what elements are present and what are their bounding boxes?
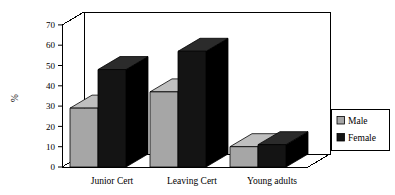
female-swatch-icon [337,134,345,142]
x-axis-labels: Junior Cert Leaving Cert Young adults [91,176,298,186]
bar-young-adults-male-front[interactable] [230,147,258,167]
y-tick-label-40: 40 [46,81,56,91]
bar-series-group [70,38,308,167]
male-swatch-icon [337,117,345,125]
y-tick-label-70: 70 [46,20,56,30]
y-tick-label-60: 60 [46,40,56,50]
y-tick-label-10: 10 [46,142,56,152]
category-label-junior-cert: Junior Cert [91,176,134,186]
bar-leaving-cert-male-front[interactable] [150,92,178,167]
bar-young-adults-female-front[interactable] [258,145,286,167]
depth-edge-top-left [62,12,84,25]
depth-edge-bottom-right [308,154,330,167]
legend-label-female: Female [348,133,376,143]
legend: Male Female [332,110,390,151]
y-tick-label-50: 50 [46,61,56,71]
bar-junior-cert-female-front[interactable] [98,70,126,167]
category-label-young-adults: Young adults [247,176,297,186]
y-axis-title: % [10,94,20,102]
legend-label-male: Male [348,116,368,126]
y-axis-ticks: 0 10 20 30 40 50 60 70 [46,20,62,172]
bar-junior-cert-female-side[interactable] [126,57,148,167]
category-label-leaving-cert: Leaving Cert [167,176,217,186]
y-tick-label-0: 0 [51,162,56,172]
legend-entry-female[interactable]: Female [337,133,376,143]
y-tick-label-20: 20 [46,122,56,132]
bar-leaving-cert-female-side[interactable] [206,38,228,167]
y-tick-label-30: 30 [46,101,56,111]
bar-junior-cert-male-front[interactable] [70,108,98,167]
legend-entry-male[interactable]: Male [337,116,368,126]
bar-chart-3d: 0 10 20 30 40 50 60 70 % Junior Cert Lea… [0,0,395,195]
chart-container: 0 10 20 30 40 50 60 70 % Junior Cert Lea… [0,0,395,195]
bar-leaving-cert-female-front[interactable] [178,51,206,167]
